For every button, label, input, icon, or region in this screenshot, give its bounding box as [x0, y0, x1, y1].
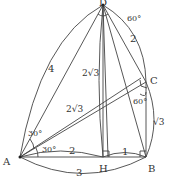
edge-DH2	[103, 5, 108, 157]
arc-AB	[20, 157, 146, 174]
arc-AH	[20, 151, 103, 157]
label-B: B	[148, 163, 155, 174]
angle-label-D: 60°	[127, 14, 141, 23]
angle-arc-A-upper	[30, 139, 34, 149]
length-DA: 4	[48, 63, 54, 74]
length-AB: 3	[76, 167, 82, 178]
label-C: C	[150, 75, 158, 86]
angle-label-A-lower: 30°	[42, 145, 56, 154]
label-D: D	[99, 0, 107, 8]
length-DC: 2	[130, 33, 136, 44]
edge-DB	[103, 5, 146, 157]
label-A: A	[2, 156, 11, 167]
length-AH: 2	[69, 145, 75, 156]
angle-arc-C	[140, 92, 146, 96]
length-DH: 2√3	[82, 68, 99, 78]
length-AC: 2√3	[66, 104, 83, 114]
point-A	[19, 156, 22, 159]
angle-arc-A-lower	[36, 148, 38, 157]
angle-label-C: 60°	[133, 97, 147, 106]
angle-label-A-upper: 30°	[28, 129, 42, 138]
length-CB: √3	[153, 117, 165, 127]
label-H: H	[99, 163, 108, 174]
length-HB: 1	[122, 146, 128, 157]
geometry-diagram: D A H B C 4 2 2√3 2√3 √3 2 1 3 60° 60° 3…	[0, 0, 171, 184]
arc-DH	[99, 5, 103, 157]
